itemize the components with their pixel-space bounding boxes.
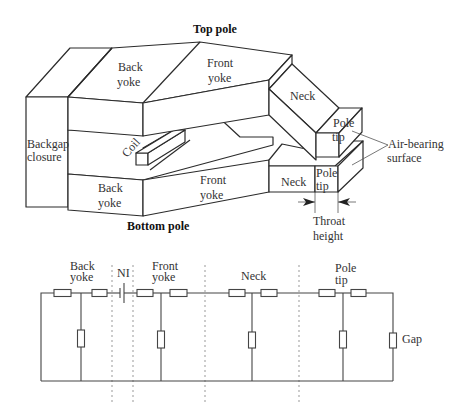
- back-yoke-leakage: [78, 330, 85, 347]
- neck-reluctance: [229, 290, 245, 297]
- front-yoke-reluctance: [170, 290, 187, 297]
- circuit-neck-label: Neck: [241, 269, 266, 283]
- back-yoke-reluctance: [92, 290, 107, 297]
- pole-tip-reluctance: [351, 290, 366, 297]
- circuit-front-yoke-label: yoke: [152, 270, 175, 284]
- bottom-front-yoke-label: yoke: [200, 188, 223, 202]
- bottom-front-yoke-label: Front: [200, 173, 227, 187]
- top-front-yoke-label: Front: [207, 56, 234, 70]
- pole-tip-reluctance: [319, 290, 335, 297]
- top-back-yoke-label: yoke: [117, 75, 140, 89]
- bottom-neck-label: Neck: [281, 175, 306, 189]
- bottom-pole-tip-label: tip: [316, 179, 329, 193]
- circuit-pole-tip-label: tip: [335, 273, 348, 287]
- bottom-back-yoke-label: Back: [98, 181, 123, 195]
- bottom-pole-label: Bottom pole: [127, 219, 190, 233]
- throat-height-label: Throat: [313, 214, 346, 228]
- magnetic-head-diagram: Top pole Back yoke Front yoke Neck Pole …: [0, 0, 461, 418]
- mmf-source-ni: [120, 283, 124, 303]
- neck-leakage: [249, 332, 256, 348]
- circuit-ni-label: NI: [117, 266, 130, 280]
- top-pole-tip-label: tip: [332, 130, 345, 144]
- backgap-closure-label: Backgap: [27, 137, 69, 151]
- back-yoke-reluctance: [54, 290, 71, 297]
- circuit-gap-label: Gap: [402, 332, 422, 346]
- top-pole-tip-label: Pole: [333, 116, 354, 130]
- bottom-back-yoke-label: yoke: [98, 196, 121, 210]
- bottom-pole-tip-label: Pole: [316, 166, 337, 180]
- backgap-closure-label: closure: [27, 150, 62, 164]
- air-bearing-surface-label: surface: [387, 151, 422, 165]
- circuit-back-yoke-label: yoke: [70, 270, 93, 284]
- top-back-yoke-label: Back: [118, 60, 143, 74]
- throat-height-label: height: [313, 229, 344, 243]
- equivalent-circuit: Back yoke NI Front yoke Neck Pole tip Ga…: [41, 259, 422, 405]
- pole-tip-leakage: [340, 331, 347, 348]
- gap-reluctance: [390, 333, 397, 348]
- head-3d-drawing: Top pole Back yoke Front yoke Neck Pole …: [26, 22, 444, 243]
- neck-reluctance: [261, 290, 277, 297]
- top-pole-label: Top pole: [193, 22, 238, 36]
- front-yoke-leakage: [158, 331, 165, 348]
- top-front-yoke-label: yoke: [208, 71, 231, 85]
- front-yoke-reluctance: [137, 290, 153, 297]
- top-neck-label: Neck: [290, 89, 315, 103]
- throat-height-marker: [298, 192, 356, 213]
- air-bearing-surface-label: Air-bearing: [388, 137, 444, 151]
